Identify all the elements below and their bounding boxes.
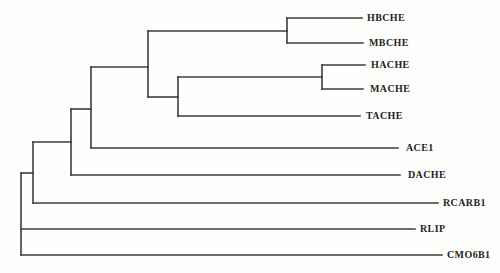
taxon-label-hache: HACHE <box>371 60 410 70</box>
taxon-label-ace1: ACE1 <box>406 143 434 153</box>
taxon-label-tache: TACHE <box>366 111 403 121</box>
taxon-label-mbche: MBCHE <box>369 38 409 48</box>
taxon-label-mache: MACHE <box>370 84 410 94</box>
phylogenetic-tree-figure: HBCHE MBCHE HACHE MACHE TACHE ACE1 DACHE… <box>0 0 500 273</box>
taxon-label-rlip: RLIP <box>420 224 446 234</box>
taxon-label-cmo6b1: CMO6B1 <box>447 250 491 260</box>
taxon-label-hbche: HBCHE <box>367 13 405 23</box>
taxon-label-dache: DACHE <box>408 170 446 180</box>
taxon-label-rcarb1: RCARB1 <box>443 198 486 208</box>
